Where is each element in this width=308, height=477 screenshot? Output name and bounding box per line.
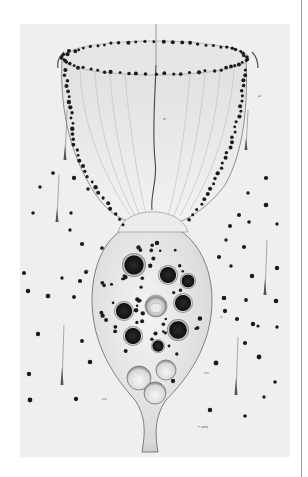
plate-label: c. — [220, 314, 223, 319]
particle — [46, 294, 51, 299]
particle — [242, 245, 246, 249]
particle — [88, 360, 93, 365]
food-vacuole — [180, 273, 196, 289]
particle — [36, 332, 40, 336]
particle — [237, 213, 241, 217]
particle — [262, 395, 265, 398]
nucleus — [145, 295, 167, 317]
contractile-vacuole — [144, 382, 166, 404]
particle — [247, 220, 251, 224]
food-vacuole — [122, 253, 146, 277]
food-vacuole — [167, 319, 189, 341]
plate-label: cv. — [204, 370, 209, 375]
particle — [222, 296, 227, 301]
particle — [74, 397, 78, 401]
particle — [60, 276, 63, 279]
particle — [273, 380, 277, 384]
particle — [214, 361, 219, 366]
particle — [171, 379, 175, 383]
particle — [72, 295, 76, 299]
particle — [22, 271, 26, 275]
particle — [229, 264, 233, 268]
plate-label: a. — [258, 93, 262, 98]
particle — [38, 185, 41, 188]
particle — [80, 242, 84, 246]
particle — [250, 274, 254, 278]
particle — [243, 341, 247, 345]
engraving-plate: a.n.b.c.cv.cv.• mm — [0, 0, 308, 477]
food-vacuole — [158, 265, 178, 285]
particle — [217, 255, 221, 259]
particle — [69, 211, 72, 214]
food-vacuole — [173, 293, 193, 313]
particle — [51, 171, 55, 175]
particle — [100, 246, 104, 250]
particle — [27, 372, 31, 376]
particle — [256, 324, 259, 327]
particle — [275, 222, 278, 225]
particle — [68, 228, 71, 231]
particle — [26, 289, 31, 294]
particle — [235, 317, 239, 321]
food-vacuole — [114, 301, 134, 321]
food-vacuole — [123, 326, 143, 346]
particle — [244, 298, 248, 302]
particle — [246, 191, 249, 194]
particle — [264, 176, 268, 180]
plate-label: • mm — [198, 424, 209, 429]
particle — [275, 266, 279, 270]
particle — [274, 299, 279, 304]
particle — [78, 279, 82, 283]
plate-label: n. — [163, 116, 167, 121]
plate-label: b. — [86, 268, 90, 273]
contractile-vacuole — [156, 360, 176, 380]
particle — [208, 408, 212, 412]
particle — [243, 414, 247, 418]
particle — [86, 187, 89, 190]
particle — [264, 203, 269, 208]
particle — [228, 224, 232, 228]
particle — [224, 238, 227, 241]
particle — [251, 322, 255, 326]
food-vacuole — [151, 339, 165, 353]
particle — [31, 211, 34, 214]
plate-label: cv. — [102, 396, 107, 401]
particle — [257, 355, 262, 360]
particle — [28, 398, 33, 403]
particle — [275, 325, 278, 328]
particle — [72, 176, 76, 180]
particle — [80, 339, 84, 343]
particle — [223, 309, 227, 313]
